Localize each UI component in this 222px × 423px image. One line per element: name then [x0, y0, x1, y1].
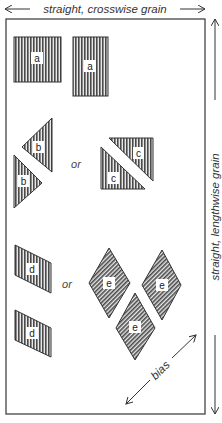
piece-b-lower: b	[14, 155, 42, 208]
piece-d-lower: d	[15, 310, 51, 357]
or-label: or	[62, 278, 73, 290]
svg-text:b: b	[21, 176, 27, 187]
bias-arrow-up-icon	[172, 335, 196, 358]
svg-text:e: e	[106, 278, 112, 289]
grain-layout-diagram: straight, crosswise grain straight, leng…	[0, 0, 222, 423]
svg-text:e: e	[132, 322, 138, 333]
piece-a-rectangle: a	[73, 37, 108, 96]
lengthwise-grain-caption: straight, lengthwise grain	[209, 153, 221, 280]
piece-d-upper: d	[15, 245, 51, 293]
svg-text:c: c	[111, 173, 116, 184]
or-label: or	[71, 158, 82, 170]
svg-text:d: d	[29, 328, 35, 339]
svg-text:a: a	[34, 53, 40, 64]
bias-caption: bias	[148, 358, 172, 382]
svg-text:e: e	[159, 280, 165, 291]
crosswise-grain-caption: straight, crosswise grain	[43, 3, 166, 15]
piece-e-right: e	[142, 250, 181, 320]
piece-a-square: a	[14, 37, 61, 82]
svg-text:a: a	[87, 61, 93, 72]
svg-text:b: b	[36, 142, 42, 153]
crosswise-grain-indicator: straight, crosswise grain	[5, 3, 205, 15]
svg-text:d: d	[29, 264, 35, 275]
piece-b-upper: b	[22, 118, 52, 172]
bias-arrow-down-icon	[126, 380, 150, 404]
piece-e-left: e	[89, 248, 130, 318]
svg-text:c: c	[136, 148, 141, 159]
piece-e-bottom: e	[116, 293, 155, 360]
lengthwise-grain-indicator: straight, lengthwise grain	[209, 19, 221, 414]
